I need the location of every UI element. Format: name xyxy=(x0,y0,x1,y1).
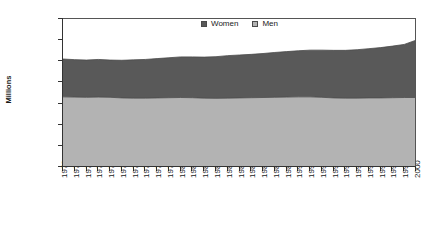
area-series-layer xyxy=(63,18,416,166)
chart-legend: WomenMen xyxy=(63,18,416,28)
legend-swatch-dark-icon xyxy=(201,21,207,27)
legend-label: Men xyxy=(262,20,278,28)
y-axis-title: Millions xyxy=(4,60,13,120)
area-series-men xyxy=(63,97,416,166)
legend-entry-men[interactable]: Men xyxy=(252,20,278,28)
legend-entry-women[interactable]: Women xyxy=(201,20,238,28)
plot-area: WomenMen xyxy=(62,18,416,167)
legend-label: Women xyxy=(211,20,238,28)
stacked-area-chart: Millions 0.0005.00010.00015.00020.00025.… xyxy=(0,0,430,227)
legend-swatch-light-icon xyxy=(252,21,258,27)
